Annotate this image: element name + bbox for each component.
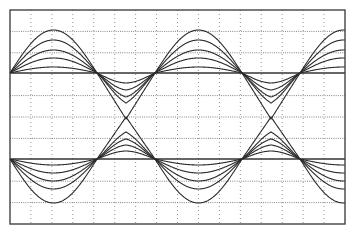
upper-family-curve [10,40,345,103]
curve-families [10,30,345,203]
lower-family-curve [10,139,345,181]
waveform-chart [0,0,354,233]
